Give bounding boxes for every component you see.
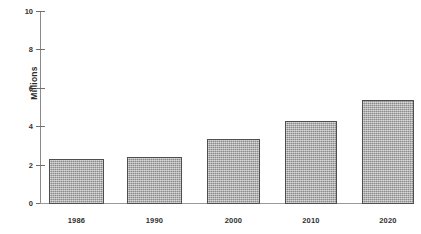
bar-2010 [285,121,337,204]
x-axis-tick-label-1990: 1990 [127,216,182,225]
plot-area [0,0,421,234]
x-axis-tick-label-2020: 2020 [362,216,414,225]
bar-chart: Millions 10 8 6 4 2 0 1986 1990 2000 201… [0,0,421,234]
bar-1986 [49,159,104,204]
bar-1990 [127,157,182,204]
bar-2020 [362,100,414,204]
bar-2000 [207,139,260,204]
x-axis-tick-label-2010: 2010 [285,216,337,225]
x-axis-tick-label-2000: 2000 [207,216,260,225]
x-axis-tick-label-1986: 1986 [49,216,104,225]
